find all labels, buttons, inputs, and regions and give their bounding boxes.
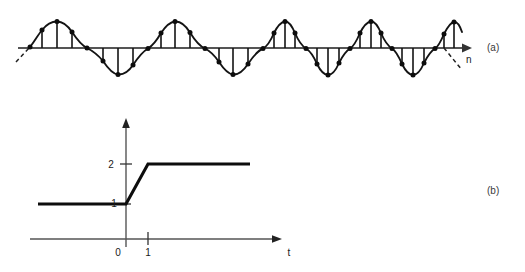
panel-a-dashed-left [16,47,30,62]
panel-b-group: 2 1 0 1 t [30,118,291,258]
panel-a-axis-label: n [466,54,472,65]
panel-b-xtick-label-1: 1 [145,247,151,258]
panel-a-axis-arrowhead [462,44,472,53]
panel-b-x-axis-arrowhead [272,235,282,243]
panel-b-ytick-label-1: 1 [111,198,117,209]
panel-b-signal-curve [38,164,250,204]
panel-a-group: n [16,19,472,78]
panel-a-dashed-right [444,48,462,70]
figure-canvas: n 2 1 0 1 t [0,0,525,272]
panel-b-xtick-label-0: 0 [115,247,121,258]
panel-a-label: (a) [487,42,499,53]
panel-b-y-axis-arrowhead [122,118,130,128]
panel-b-ytick-label-2: 2 [108,159,114,170]
panel-b-axis-label-t: t [288,247,291,258]
panel-b-label: (b) [487,185,499,196]
figure-root: n 2 1 0 1 t (a) (b) [0,0,525,272]
